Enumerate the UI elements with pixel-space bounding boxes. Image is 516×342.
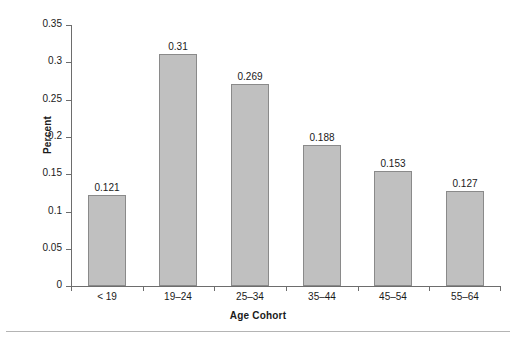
y-tick-6: 0.3 bbox=[66, 62, 71, 63]
bar-value-3: 0.188 bbox=[309, 132, 334, 143]
x-category-label-5: 55–64 bbox=[430, 291, 500, 302]
y-tick-4: 0.2 bbox=[66, 137, 71, 138]
y-tick-label-5: 0.25 bbox=[43, 93, 62, 104]
y-tick-3: 0.15 bbox=[66, 174, 71, 175]
x-category-label-3: 35–44 bbox=[287, 291, 357, 302]
y-tick-label-3: 0.15 bbox=[43, 167, 62, 178]
bar-value-0: 0.121 bbox=[94, 182, 119, 193]
y-tick-label-0: 0 bbox=[56, 279, 62, 290]
bar-chart-figure: Percent 0 0.05 0.1 0.15 0.2 0.25 0.3 0.3… bbox=[0, 0, 516, 342]
y-tick-label-7: 0.35 bbox=[43, 18, 62, 29]
bar-2[interactable]: 0.269 bbox=[231, 84, 269, 286]
y-tick-7: 0.35 bbox=[66, 25, 71, 26]
y-tick-label-4: 0.2 bbox=[48, 130, 62, 141]
bar-5[interactable]: 0.127 bbox=[446, 191, 484, 286]
plot-area: 0 0.05 0.1 0.15 0.2 0.25 0.3 0.35 bbox=[71, 25, 501, 287]
y-tick-label-2: 0.1 bbox=[48, 205, 62, 216]
bar-3[interactable]: 0.188 bbox=[303, 145, 341, 286]
x-category-label-1: 19–24 bbox=[143, 291, 213, 302]
bar-value-5: 0.127 bbox=[452, 178, 477, 189]
bar-value-1: 0.31 bbox=[168, 41, 187, 52]
y-tick-label-1: 0.05 bbox=[43, 242, 62, 253]
y-tick-2: 0.1 bbox=[66, 212, 71, 213]
x-tick-6 bbox=[500, 286, 501, 291]
x-category-label-0: < 19 bbox=[72, 291, 142, 302]
bar-0[interactable]: 0.121 bbox=[88, 195, 126, 286]
figure-bottom-rule bbox=[6, 331, 510, 332]
y-axis-line bbox=[71, 25, 72, 287]
x-category-label-4: 45–54 bbox=[358, 291, 428, 302]
bar-1[interactable]: 0.31 bbox=[159, 54, 197, 286]
bar-value-4: 0.153 bbox=[380, 158, 405, 169]
bar-4[interactable]: 0.153 bbox=[374, 171, 412, 286]
bar-value-2: 0.269 bbox=[237, 71, 262, 82]
y-tick-5: 0.25 bbox=[66, 100, 71, 101]
y-tick-1: 0.05 bbox=[66, 249, 71, 250]
x-category-label-2: 25–34 bbox=[215, 291, 285, 302]
x-axis-title: Age Cohort bbox=[0, 310, 516, 321]
y-tick-label-6: 0.3 bbox=[48, 55, 62, 66]
